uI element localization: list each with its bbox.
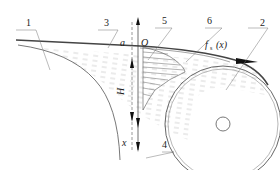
callout-5: 5 [162,15,167,26]
callout-3: 3 [104,17,109,28]
symbol-H: H [115,87,126,96]
svg-text:(x): (x) [216,39,228,51]
diagram-canvas: 1 2 3 4 5 6 a O H x f s (x) [0,0,280,191]
symbol-origin: O [141,37,148,48]
roller-axle [216,117,230,131]
callout-1: 1 [26,17,31,28]
callout-6: 6 [207,15,212,26]
symbol-x: x [121,137,127,148]
arrow-down-icon [136,142,140,152]
arrow-up-icon [136,17,140,25]
callout-2: 2 [260,17,265,28]
symbol-a: a [120,37,125,48]
callout-4: 4 [162,139,167,150]
arrow-down-icon [130,112,134,122]
arrow-down-icon [136,118,140,128]
svg-text:s: s [210,45,213,51]
